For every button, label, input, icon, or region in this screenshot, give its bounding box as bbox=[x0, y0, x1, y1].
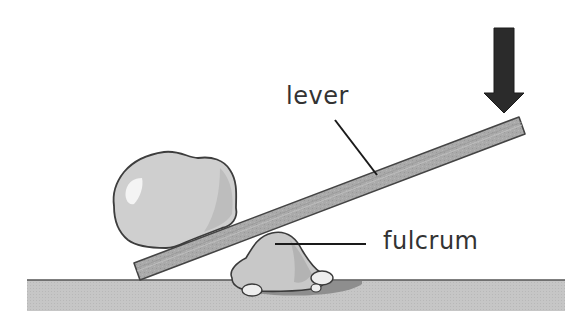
effort-arrow-icon bbox=[484, 28, 524, 113]
lever-diagram: lever fulcrum bbox=[0, 0, 579, 325]
fulcrum-label: fulcrum bbox=[383, 229, 478, 253]
lever-leader-line bbox=[335, 120, 377, 175]
fulcrum-rock bbox=[231, 232, 333, 296]
diagram-canvas bbox=[0, 0, 579, 325]
lever-label: lever bbox=[286, 84, 349, 108]
